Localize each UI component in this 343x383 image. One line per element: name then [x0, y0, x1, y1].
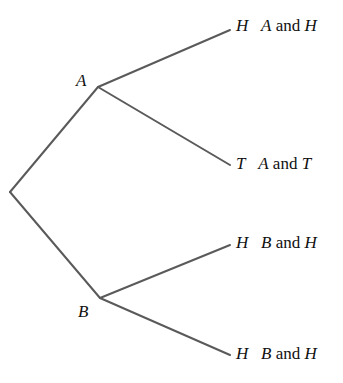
tree-branches — [0, 0, 343, 383]
result-prefix: A — [261, 16, 271, 35]
outcome-3: H B and H — [236, 234, 317, 251]
leaf-label: H — [236, 344, 248, 363]
result-and: and — [276, 233, 301, 252]
result-suffix: H — [304, 344, 316, 363]
node-label-b: B — [78, 303, 88, 320]
branch-a-h — [98, 30, 230, 87]
result-and: and — [273, 154, 298, 173]
tree-diagram: A B H A and H T A and T H B and H H B an… — [0, 0, 343, 383]
result-and: and — [276, 16, 301, 35]
outcome-4: H B and H — [236, 345, 317, 362]
leaf-label: T — [236, 154, 245, 173]
leaf-label: H — [236, 16, 248, 35]
result-prefix: B — [261, 344, 271, 363]
outcome-2: T A and T — [236, 155, 311, 172]
branch-b-h1 — [100, 245, 230, 298]
leaf-label: H — [236, 233, 248, 252]
result-prefix: A — [258, 154, 268, 173]
result-and: and — [276, 344, 301, 363]
branch-b-h2 — [100, 298, 230, 355]
result-suffix: H — [304, 233, 316, 252]
branch-root-a — [10, 87, 98, 192]
result-suffix: T — [302, 154, 311, 173]
outcome-1: H A and H — [236, 17, 317, 34]
node-label-a: A — [76, 72, 86, 89]
result-prefix: B — [261, 233, 271, 252]
branch-a-t — [98, 87, 230, 165]
result-suffix: H — [304, 16, 316, 35]
branch-root-b — [10, 192, 100, 298]
